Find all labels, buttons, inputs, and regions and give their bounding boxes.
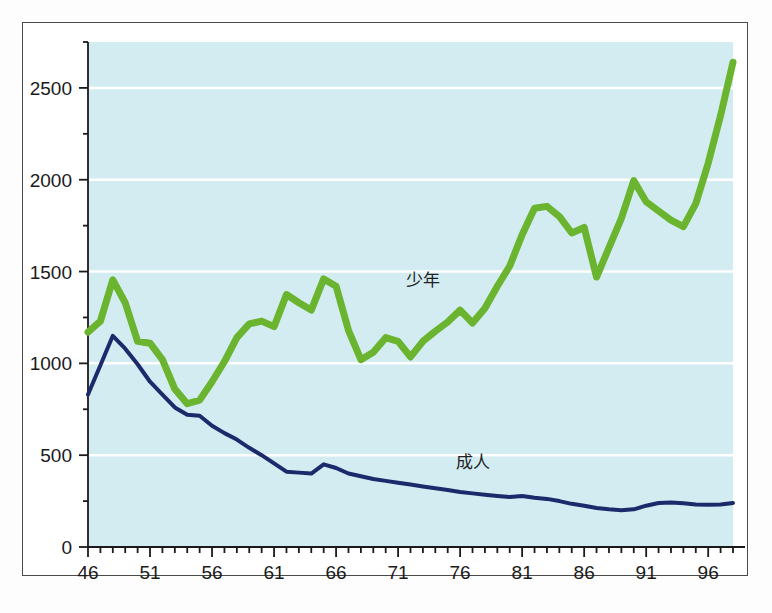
y-tick-label: 0 xyxy=(61,537,72,558)
y-axis: 05001000150020002500 xyxy=(30,42,88,558)
series-label-juvenile: 少年 xyxy=(406,270,440,290)
y-tick-label: 2000 xyxy=(30,170,72,191)
chart-figure: 05001000150020002500 4651566166717681869… xyxy=(0,0,772,613)
x-axis: 4651566166717681869196 xyxy=(77,547,745,583)
y-tick-label: 2500 xyxy=(30,78,72,99)
y-tick-label: 1500 xyxy=(30,262,72,283)
plot-background xyxy=(88,42,733,547)
x-tick-label: 76 xyxy=(450,562,471,583)
plot-area-rect xyxy=(88,42,733,547)
x-tick-label: 86 xyxy=(574,562,595,583)
line-chart: 05001000150020002500 4651566166717681869… xyxy=(0,0,772,613)
x-tick-label: 46 xyxy=(77,562,98,583)
y-tick-label: 500 xyxy=(40,445,72,466)
x-tick-label: 51 xyxy=(139,562,160,583)
x-tick-label: 81 xyxy=(512,562,533,583)
x-tick-label: 66 xyxy=(326,562,347,583)
x-tick-label: 56 xyxy=(201,562,222,583)
x-tick-label: 91 xyxy=(636,562,657,583)
x-tick-label: 96 xyxy=(698,562,719,583)
x-tick-label: 71 xyxy=(388,562,409,583)
x-tick-label: 61 xyxy=(263,562,284,583)
y-tick-label: 1000 xyxy=(30,353,72,374)
series-label-adult: 成人 xyxy=(456,452,490,472)
